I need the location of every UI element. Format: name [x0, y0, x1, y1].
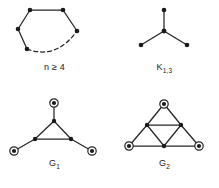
g2-vertex-mid-left	[145, 123, 149, 127]
g1-caption-subscript: 1	[56, 163, 60, 170]
cycle-caption: n ≥ 4	[0, 62, 109, 73]
k13-vertex-leaf-left	[139, 43, 144, 48]
g2-vertex-corner-right	[195, 142, 203, 150]
cycle-vertex-bottom-left	[25, 47, 30, 52]
cycle-vertex-top-left	[28, 8, 33, 13]
figure-panel-g1: G1	[0, 94, 109, 188]
g1-vertex-pendant-left	[10, 147, 18, 155]
cycle-edge-dashed-arc	[27, 31, 77, 52]
g2-edge-mid-right-to-mid-bottom	[164, 125, 181, 146]
figure-panel-cycle: n ≥ 4	[0, 0, 109, 94]
g1-vertex-triangle-right	[69, 137, 73, 141]
k13-edge-right	[164, 31, 187, 45]
cycle-vertex-right	[75, 29, 80, 34]
k13-vertex-leaf-top	[162, 8, 167, 13]
g2-vertex-corner-left	[125, 142, 133, 150]
cycle-edge-lower-left	[18, 29, 27, 49]
g1-vertex-pendant-top	[50, 99, 58, 107]
g1-circled-vertex-group	[10, 99, 96, 155]
k13-vertex-center	[162, 29, 167, 34]
g1-inner-vertex-group	[33, 119, 73, 141]
g2-caption: G2	[110, 158, 219, 169]
g1-graph-drawing	[0, 94, 109, 166]
cycle-vertex-top-right	[61, 8, 66, 13]
g2-graph-drawing	[110, 94, 219, 166]
k13-caption: K1,3	[110, 62, 219, 73]
figure-panel-g2: G2	[110, 94, 219, 188]
g1-vertex-pendant-right	[88, 147, 96, 155]
g1-edge-triangle-left	[35, 121, 54, 139]
g2-vertex-mid-bottom	[162, 144, 166, 148]
cycle-edge-upper-left	[18, 10, 30, 29]
cycle-edge-upper-right	[63, 10, 77, 31]
g2-edge-mid-left-to-mid-bottom	[147, 125, 164, 146]
k13-edge-left	[141, 31, 164, 45]
figure-panel-k13: K1,3	[110, 0, 219, 94]
figure-sheet: n ≥ 4 K1,3	[0, 0, 219, 188]
g1-vertex-triangle-left	[33, 137, 37, 141]
g1-vertex-triangle-top	[52, 119, 56, 123]
k13-caption-subscript: 1,3	[163, 67, 173, 74]
g2-vertex-mid-right	[179, 123, 183, 127]
cycle-vertex-left	[16, 27, 21, 32]
g1-caption: G1	[0, 158, 109, 169]
g2-caption-subscript: 2	[166, 163, 170, 170]
k13-vertex-leaf-right	[185, 43, 190, 48]
g2-vertex-corner-top	[160, 100, 168, 108]
g1-edge-triangle-right	[54, 121, 71, 139]
g2-midpoint-vertex-group	[145, 123, 183, 148]
